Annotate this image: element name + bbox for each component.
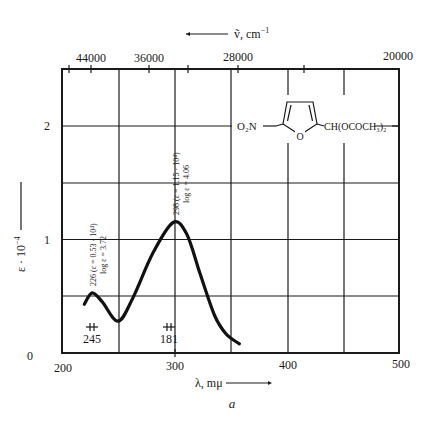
molecule-structure: O₂N O CH(OCOCH₃)₂ — [232, 95, 399, 143]
x-tick-200: 200 — [54, 361, 72, 375]
y-axis-label: ε · 10−4 — [13, 236, 28, 272]
svg-text:181: 181 — [160, 332, 178, 346]
top-axis-label: ṽ, cm−1 — [234, 26, 269, 41]
svg-text:226 (ε = 0.53 · 10⁴): 226 (ε = 0.53 · 10⁴) — [89, 223, 98, 286]
svg-text:log ε = 3.72: log ε = 3.72 — [99, 236, 108, 274]
top-tick-44000: 44000 — [76, 51, 106, 65]
arrow-left-icon — [186, 32, 190, 36]
peak-298-annotation: 298 (ε = 1.15 · 10⁴) log ε = 4.06 — [172, 152, 191, 215]
x-tick-500: 500 — [392, 357, 410, 371]
struct-o: O — [296, 131, 303, 142]
top-axis-title: ṽ, cm−1 — [186, 26, 269, 41]
y-tick-0: 0 — [27, 349, 33, 363]
y-tick-1: 1 — [44, 233, 50, 247]
top-tick-20000: 20000 — [383, 49, 413, 63]
x-tick-300: 300 — [166, 359, 184, 373]
peak-226-annotation: 226 (ε = 0.53 · 10⁴) log ε = 3.72 — [89, 223, 108, 286]
slit-marker-245: 245 — [83, 323, 101, 346]
arrow-right-icon — [268, 381, 272, 385]
top-tick-36000: 36000 — [134, 51, 164, 65]
x-axis-label: λ, mμ — [195, 376, 223, 390]
x-axis-title: λ, mμ — [195, 376, 272, 390]
y-axis-title: ε · 10−4 — [13, 182, 28, 272]
panel-label: a — [229, 396, 236, 411]
uv-spectrum-chart: ṽ, cm−1 44000 36000 28000 20000 O₂N — [0, 0, 433, 429]
top-tick-28000: 28000 — [223, 50, 253, 64]
svg-text:log ε = 4.06: log ε = 4.06 — [182, 165, 191, 203]
svg-text:245: 245 — [83, 332, 101, 346]
y-tick-2: 2 — [44, 119, 50, 133]
svg-text:298 (ε = 1.15 · 10⁴): 298 (ε = 1.15 · 10⁴) — [172, 152, 181, 215]
struct-o2n: O₂N — [237, 120, 257, 132]
x-tick-400: 400 — [279, 358, 297, 372]
struct-ch: CH(OCOCH₃)₂ — [324, 121, 387, 133]
